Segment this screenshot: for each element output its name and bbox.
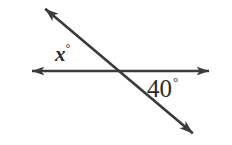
geometry-canvas bbox=[0, 0, 232, 145]
degree-symbol-x: ° bbox=[66, 41, 71, 55]
angle-label-x-value: x bbox=[55, 42, 66, 66]
degree-symbol-40: ° bbox=[173, 74, 178, 89]
angle-label-40: 40° bbox=[147, 76, 177, 101]
angle-label-40-value: 40 bbox=[147, 75, 172, 102]
geometry-figure: x° 40° bbox=[0, 0, 232, 145]
angle-label-x: x° bbox=[55, 43, 70, 65]
